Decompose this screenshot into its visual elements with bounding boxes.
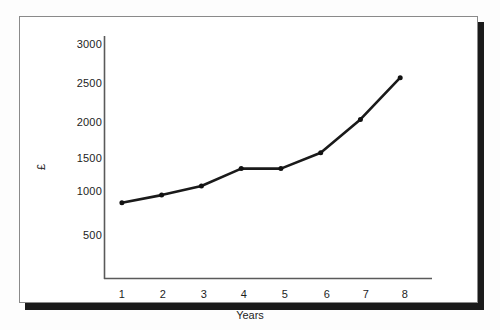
data-point-3 [199, 184, 204, 189]
data-point-6 [318, 150, 323, 155]
x-axis-title: Years [236, 309, 264, 321]
data-point-4 [239, 166, 244, 171]
data-point-2 [159, 193, 164, 198]
data-point-8 [398, 75, 403, 80]
plot-area: 3000 2500 2000 1500 1000 500 1 2 3 4 5 6… [20, 17, 477, 302]
scanned-page-background: 3000 2500 2000 1500 1000 500 1 2 3 4 5 6… [0, 0, 500, 330]
data-point-markers [119, 75, 402, 205]
chart-figure-frame: 3000 2500 2000 1500 1000 500 1 2 3 4 5 6… [19, 16, 478, 303]
data-point-5 [278, 166, 283, 171]
data-point-1 [119, 200, 124, 205]
chart-canvas [20, 17, 479, 304]
data-point-7 [358, 117, 363, 122]
data-series-line [122, 78, 400, 203]
